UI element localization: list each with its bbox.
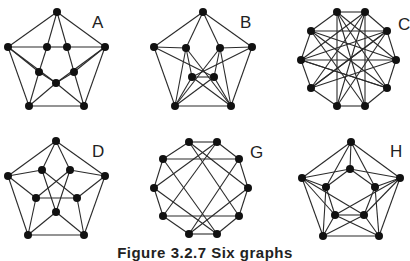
graph-edge bbox=[311, 60, 396, 88]
graph-vertex bbox=[347, 138, 355, 146]
graph-vertex bbox=[38, 166, 46, 174]
graph-edge bbox=[163, 142, 189, 159]
graph-vertex bbox=[392, 56, 400, 64]
graph-vertex bbox=[35, 68, 43, 76]
graph-vertex bbox=[307, 27, 315, 35]
graph-edge bbox=[217, 142, 239, 159]
graph-h: H bbox=[298, 138, 404, 240]
graph-vertex bbox=[185, 230, 193, 238]
graph-vertex bbox=[4, 172, 12, 180]
graph-edge bbox=[47, 12, 57, 47]
graph-edge bbox=[365, 88, 387, 106]
graph-edge bbox=[57, 12, 67, 47]
graph-vertex bbox=[235, 212, 243, 220]
graph-edge bbox=[29, 72, 39, 106]
graph-vertex bbox=[66, 166, 74, 174]
graph-vertex bbox=[73, 194, 81, 202]
graph-vertex bbox=[248, 43, 256, 51]
graph-vertex bbox=[298, 174, 306, 182]
graph-edge bbox=[56, 47, 105, 83]
graph-vertex bbox=[361, 102, 369, 110]
graph-edge bbox=[8, 170, 42, 176]
graph-vertex bbox=[307, 84, 315, 92]
graph-edge bbox=[365, 12, 387, 31]
graph-edge bbox=[154, 142, 217, 188]
graph-d: D bbox=[4, 137, 109, 239]
graph-vertex bbox=[80, 102, 88, 110]
graph-edge bbox=[163, 216, 189, 234]
graph-label: A bbox=[92, 13, 104, 32]
graph-edge bbox=[8, 12, 57, 47]
graph-vertex bbox=[375, 232, 383, 240]
graph-edge bbox=[350, 169, 400, 178]
graph-label: B bbox=[240, 13, 251, 32]
graph-edge bbox=[42, 170, 77, 198]
graph-vertex bbox=[371, 183, 379, 191]
graph-vertex bbox=[53, 8, 61, 16]
graph-vertex bbox=[213, 230, 221, 238]
graph-label: D bbox=[92, 142, 104, 161]
graph-vertex bbox=[182, 44, 190, 52]
graph-vertex bbox=[297, 56, 305, 64]
graph-vertex bbox=[188, 73, 196, 81]
graph-edge bbox=[302, 142, 351, 178]
graph-edge bbox=[337, 12, 396, 60]
graph-b: B bbox=[150, 8, 256, 110]
graph-vertex bbox=[333, 8, 341, 16]
graph-edge bbox=[301, 12, 365, 60]
graph-vertex bbox=[383, 84, 391, 92]
graph-edge bbox=[154, 47, 186, 48]
graph-vertex bbox=[216, 44, 224, 52]
graph-vertex bbox=[396, 174, 404, 182]
graph-vertex bbox=[319, 232, 327, 240]
graph-edge bbox=[8, 176, 28, 235]
graph-edge bbox=[350, 142, 351, 169]
graph-vertex bbox=[322, 183, 330, 191]
graph-vertex bbox=[101, 43, 109, 51]
graph-edge bbox=[154, 188, 217, 234]
graph-vertex bbox=[227, 102, 235, 110]
graph-label: C bbox=[398, 15, 410, 34]
graph-label: G bbox=[250, 143, 263, 162]
graph-edge bbox=[311, 12, 337, 31]
graph-edge bbox=[379, 178, 400, 236]
graph-vertex bbox=[185, 138, 193, 146]
graph-edge bbox=[239, 159, 248, 188]
graph-a: A bbox=[4, 8, 109, 110]
graph-vertex bbox=[383, 27, 391, 35]
graph-edge bbox=[326, 187, 335, 215]
graph-vertex bbox=[52, 208, 60, 216]
graph-vertex bbox=[80, 231, 88, 239]
graph-edge bbox=[42, 141, 56, 170]
graph-vertex bbox=[32, 194, 40, 202]
graph-edge bbox=[8, 141, 56, 176]
graph-edge bbox=[326, 142, 351, 187]
graph-vertex bbox=[159, 212, 167, 220]
graph-vertex bbox=[360, 211, 368, 219]
graph-vertex bbox=[199, 8, 207, 16]
graph-vertex bbox=[210, 73, 218, 81]
graph-vertex bbox=[24, 231, 32, 239]
graph-edge bbox=[163, 159, 217, 234]
graph-edge bbox=[302, 178, 323, 236]
graph-vertex bbox=[25, 102, 33, 110]
graph-vertex bbox=[70, 68, 78, 76]
graph-edge bbox=[335, 178, 400, 215]
graph-edge bbox=[154, 159, 163, 188]
graph-edge bbox=[154, 188, 163, 216]
graph-vertex bbox=[171, 102, 179, 110]
graph-edge bbox=[217, 216, 239, 234]
graph-vertex bbox=[52, 137, 60, 145]
graph-edge bbox=[8, 47, 56, 83]
graph-c: C bbox=[297, 8, 410, 110]
graph-vertex bbox=[213, 138, 221, 146]
graph-edge bbox=[189, 142, 248, 188]
graph-vertex bbox=[63, 43, 71, 51]
graph-edge bbox=[29, 83, 56, 106]
graph-edge bbox=[323, 187, 326, 236]
graph-label: H bbox=[390, 142, 402, 161]
graph-edge bbox=[74, 72, 84, 106]
graph-vertex bbox=[4, 43, 12, 51]
graph-vertex bbox=[244, 184, 252, 192]
